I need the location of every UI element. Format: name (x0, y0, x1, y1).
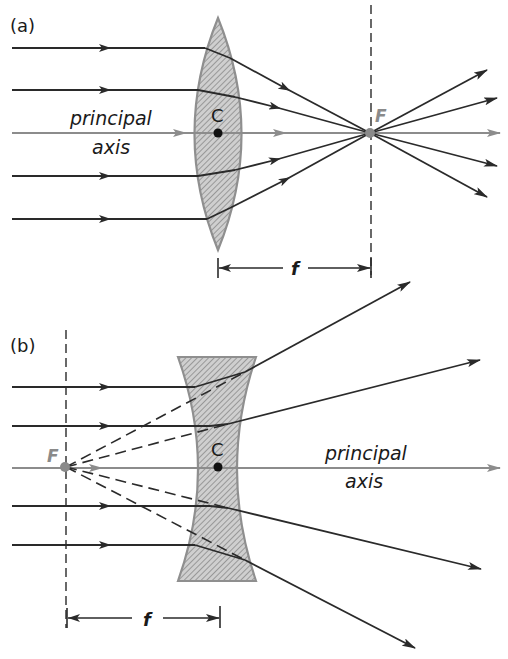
lens-diagram: (a) (0, 0, 508, 659)
focal-label-a: F (375, 106, 387, 126)
focal-length-dimension-b: f (67, 606, 220, 630)
center-label-b: C (211, 439, 224, 460)
panel-b: (b) (10, 282, 500, 648)
axis-label-b-2: axis (345, 470, 383, 492)
optical-center-dot-b (214, 463, 223, 472)
focal-length-dimension-a: f (218, 258, 371, 279)
focal-label-b: F (47, 446, 59, 466)
focal-point-a (365, 128, 375, 138)
focal-point-b (60, 462, 70, 472)
panel-a: (a) (10, 5, 500, 279)
panel-b-label: (b) (10, 335, 35, 356)
panel-a-label: (a) (10, 15, 35, 36)
center-label-a: C (211, 105, 224, 126)
focal-length-label-a: f (291, 258, 301, 279)
incident-rays-b (12, 387, 210, 545)
axis-label-b-1: principal (324, 442, 408, 464)
optical-center-dot (214, 129, 223, 138)
axis-label-a-2: axis (92, 136, 130, 158)
diverging-rays (228, 282, 481, 648)
axis-label-a-1: principal (69, 107, 153, 129)
focal-length-label-b: f (143, 609, 153, 630)
